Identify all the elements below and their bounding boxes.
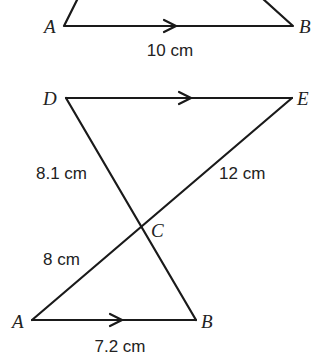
vertex-label-e: E: [296, 88, 309, 109]
length-label-ac: 8 cm: [43, 250, 80, 269]
bowtie-figure: D E C A B 8.1 cm 12 cm 8 cm 7.2 cm: [10, 88, 309, 356]
vertex-label-c: C: [151, 220, 164, 241]
length-label-ec: 12 cm: [219, 164, 265, 183]
edge-db: [66, 98, 196, 320]
top-triangle: A B 10 cm: [42, 0, 311, 60]
vertex-label-top-b: B: [299, 16, 311, 37]
length-label-dc: 8.1 cm: [36, 164, 87, 183]
vertex-label-bottom-a: A: [10, 311, 24, 332]
vertex-label-d: D: [42, 88, 57, 109]
vertex-label-top-a: A: [42, 16, 56, 37]
length-label-top-ab: 10 cm: [147, 41, 193, 60]
vertex-label-bottom-b: B: [201, 311, 213, 332]
length-label-ab: 7.2 cm: [94, 337, 145, 356]
top-triangle-edges: [64, 0, 293, 26]
edge-ea: [32, 98, 292, 320]
geometry-diagram: A B 10 cm D E C A B 8.1 cm 12 cm 8 cm 7.…: [0, 0, 312, 362]
